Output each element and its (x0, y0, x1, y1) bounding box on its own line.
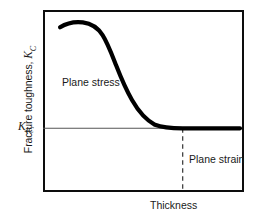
figure-canvas: Fracture toughness, KC KIC Plane stress … (0, 0, 255, 219)
annotation-plane-strain: Plane strain (189, 153, 244, 165)
kic-tick-label: KIC (18, 120, 34, 135)
y-axis-label: Fracture toughness, KC (22, 15, 37, 185)
y-axis-label-subscript: C (29, 46, 38, 51)
y-axis-label-text: Fracture toughness, (22, 59, 34, 153)
annotation-plane-stress: Plane stress (62, 76, 120, 88)
x-axis-label: Thickness (150, 199, 197, 211)
kic-symbol: K (18, 120, 26, 132)
y-axis-label-symbol: K (22, 51, 34, 59)
kic-subscript: IC (26, 126, 34, 135)
